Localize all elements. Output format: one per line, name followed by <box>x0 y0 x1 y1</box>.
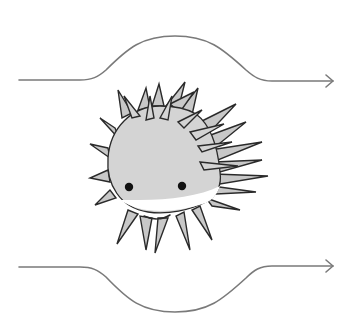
right-eye <box>178 182 186 190</box>
diagram-canvas <box>0 0 342 326</box>
diagram-svg <box>0 0 342 326</box>
urchin-character <box>90 82 268 253</box>
top-flow-line <box>19 36 333 87</box>
left-eye <box>125 183 133 191</box>
bottom-flow-line <box>19 260 333 312</box>
